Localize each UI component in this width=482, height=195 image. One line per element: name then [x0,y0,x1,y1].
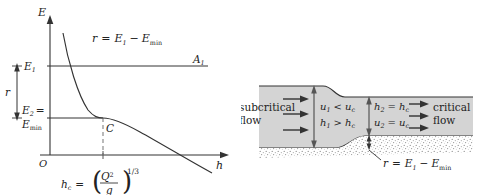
specific-energy-chart-panel: E h O E1 [0,0,241,195]
specific-energy-curve [63,33,212,173]
step-height-annotation: r=E1−Emin [383,157,451,172]
critical-depth-formula: hc= ( ) Q2 g 1/3 [61,166,139,195]
point-a1-label: A1 [192,53,205,67]
x-axis [40,152,229,159]
hc-exponent: 1/3 [127,167,139,176]
hc-numerator: Q2 [101,170,114,183]
y-axis [47,15,54,155]
hc-denominator: g [106,184,113,195]
e1-axis-label: E1 [23,60,36,74]
emin-axis-label: Emin [21,118,42,132]
specific-energy-chart: E h O E1 [0,0,241,195]
r-bracket [12,63,22,121]
critical-flow-label-line1: critical [433,101,471,113]
channel-transition-panel: subcritical flow critical flow u1<uc h1>… [241,0,482,195]
origin-label: O [39,158,47,169]
y-axis-label: E [37,6,46,19]
e2-axis-label: E2= [21,104,45,118]
critical-flow-label-line2: flow [433,114,455,126]
hc-formula-lhs: hc= [61,178,84,192]
subcritical-flow-label-line2: flow [241,114,261,126]
subcritical-flow-label-line1: subcritical [241,101,296,113]
x-axis-label: h [216,159,223,172]
point-c-label: C [106,122,114,134]
channel-transition-diagram: subcritical flow critical flow u1<uc h1>… [241,0,482,195]
r-bracket-label: r [5,86,11,98]
energy-loss-annotation: r=E1−Emin [92,32,162,47]
